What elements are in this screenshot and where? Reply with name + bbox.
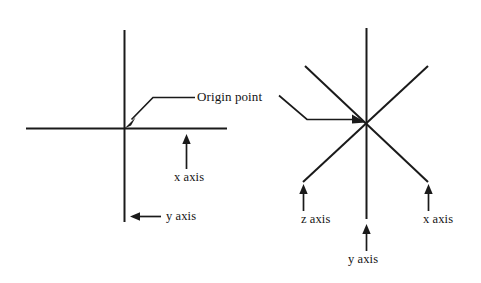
right-z-axis-pointer [299,184,307,211]
figure-canvas: Origin point x axis y axis z axis x axis… [0,0,481,283]
left-x-axis-pointer [182,134,190,169]
right-diagram-group [303,28,428,219]
right-z-axis-label: z axis [301,213,330,226]
right-y-axis-label: y axis [348,253,378,266]
origin-leader-left [125,98,196,129]
origin-leader-right-path [279,96,355,120]
axes-diagram [0,0,481,283]
right-x-axis-pointer-arrowhead [424,184,432,194]
right-x-axis-label: x axis [423,213,453,226]
left-y-axis-label: y axis [166,210,196,223]
left-y-axis-pointer [130,212,161,220]
left-x-axis-pointer-arrowhead [182,134,190,144]
right-y-axis-pointer [362,224,370,251]
origin-leader-left-arrowhead [125,118,136,129]
left-x-axis-label: x axis [174,171,204,184]
origin-leader-left-path [132,98,196,120]
left-diagram-group [26,30,227,222]
origin-leader-right [279,96,366,124]
right-y-axis-pointer-arrowhead [362,224,370,234]
origin-point-label: Origin point [197,90,262,103]
left-y-axis-pointer-arrowhead [130,212,140,220]
right-x-axis-pointer [424,184,432,211]
right-z-axis-pointer-arrowhead [299,184,307,194]
